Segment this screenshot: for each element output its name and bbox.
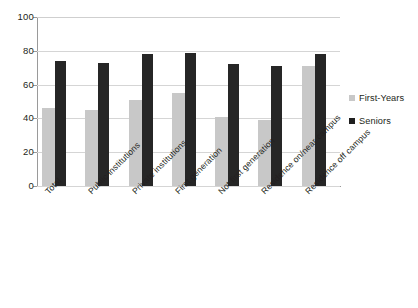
y-axis-tick-label: 80	[4, 46, 34, 56]
legend-item-seniors: Seniors	[349, 116, 417, 126]
legend-swatch-seniors	[349, 118, 355, 124]
bar-chart: 020406080100 TotalPublic institutionsPri…	[0, 0, 418, 308]
bar-first-years	[302, 66, 315, 186]
chart-legend: First-Years Seniors	[349, 93, 417, 139]
bar-seniors	[55, 61, 66, 186]
y-axis-tick-label: 60	[4, 80, 34, 90]
legend-item-first-years: First-Years	[349, 93, 417, 103]
legend-label-seniors: Seniors	[359, 116, 391, 126]
y-axis-tick-label: 40	[4, 113, 34, 123]
y-axis-tick-label: 20	[4, 147, 34, 157]
legend-label-first-years: First-Years	[359, 93, 404, 103]
x-axis-tick-labels: TotalPublic institutionsPrivate institut…	[37, 189, 377, 289]
bar-group	[37, 17, 80, 186]
legend-swatch-first-years	[349, 95, 355, 101]
bar-first-years	[85, 110, 98, 186]
y-axis-tick-label: 100	[4, 12, 34, 22]
y-axis-tick-label: 0	[4, 181, 34, 191]
bar-first-years	[42, 108, 55, 186]
